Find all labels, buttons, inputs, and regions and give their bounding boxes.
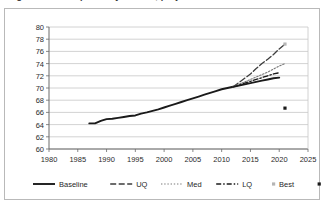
x-axis-tick-label: 2010: [213, 155, 230, 164]
y-axis-tick-label: 76: [36, 47, 44, 56]
y-axis-tick-label: 60: [36, 145, 44, 154]
x-axis-tick-label: 1985: [69, 155, 86, 164]
data-point-marker: [283, 42, 286, 45]
x-axis-tick-label: 1995: [127, 155, 144, 164]
x-axis-tick-label: 1990: [98, 155, 115, 164]
x-axis-tick-label: 2005: [185, 155, 202, 164]
legend-label: Best: [279, 180, 295, 189]
legend-marker: [318, 182, 321, 185]
legend-label: UQ: [136, 180, 147, 189]
x-axis-tick-label: 2025: [300, 155, 317, 164]
series-line: [233, 64, 285, 87]
y-axis-tick-label: 80: [36, 23, 44, 32]
y-axis-tick-label: 78: [36, 35, 44, 44]
screenshot-root: Figure 3. Life expectancy at birth, proj…: [0, 0, 326, 207]
legend-label: Baseline: [59, 180, 88, 189]
x-axis-tick-label: 2020: [271, 155, 288, 164]
data-point-marker: [283, 107, 286, 110]
y-axis-tick-label: 62: [36, 133, 44, 142]
series-line: [233, 73, 279, 87]
x-axis-tick-label: 1980: [41, 155, 58, 164]
cutoff-title-fragment: Figure 3. Life expectancy at birth, proj…: [0, 0, 326, 7]
cutoff-title-text: Figure 3. Life expectancy at birth, proj…: [8, 0, 211, 1]
y-axis-tick-label: 72: [36, 72, 44, 81]
y-axis-tick-label: 68: [36, 96, 44, 105]
legend-label: Med: [187, 180, 202, 189]
y-axis-tick-label: 70: [36, 84, 44, 93]
x-axis-tick-label: 2000: [156, 155, 173, 164]
y-axis-tick-label: 66: [36, 108, 44, 117]
legend-marker: [272, 182, 275, 185]
chart-frame: 6062646668707274767880198019851990199520…: [4, 8, 320, 200]
y-axis-tick-label: 74: [36, 60, 44, 69]
chart-legend: BaselineUQMedLQBestWorst: [5, 169, 321, 197]
x-axis-tick-label: 2015: [242, 155, 259, 164]
y-axis-tick-label: 64: [36, 121, 44, 130]
legend-label: LQ: [242, 180, 252, 189]
legend-svg: BaselineUQMedLQBestWorst: [5, 169, 321, 197]
